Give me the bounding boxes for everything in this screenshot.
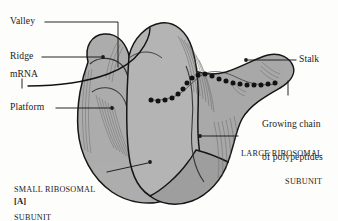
anchor-platform xyxy=(110,106,114,110)
label-small-subunit-line2: SUBUNIT xyxy=(14,213,95,221)
anchor-ridge xyxy=(101,55,105,59)
label-stalk: Stalk xyxy=(299,54,319,65)
label-large-subunit-line2: SUBUNIT xyxy=(241,177,322,186)
label-mrna: mRNA xyxy=(10,69,38,80)
anchor-stalk xyxy=(244,58,248,62)
anchor-small-subunit xyxy=(148,160,152,164)
label-ridge: Ridge xyxy=(10,51,33,62)
label-growing-chain-line1: Growing chain xyxy=(262,119,323,130)
label-large-ribosomal-subunit: LARGE RIBOSOMAL SUBUNIT xyxy=(241,131,322,195)
label-small-subunit-line1: SMALL RIBOSOMAL xyxy=(14,185,95,194)
label-valley: Valley xyxy=(10,16,35,27)
anchor-large-subunit xyxy=(198,134,202,138)
label-platform: Platform xyxy=(10,102,44,113)
label-large-subunit-line1: LARGE RIBOSOMAL xyxy=(241,149,322,158)
label-small-ribosomal-subunit: SMALL RIBOSOMAL SUBUNIT xyxy=(14,167,95,221)
panel-label: [A] xyxy=(14,197,26,207)
